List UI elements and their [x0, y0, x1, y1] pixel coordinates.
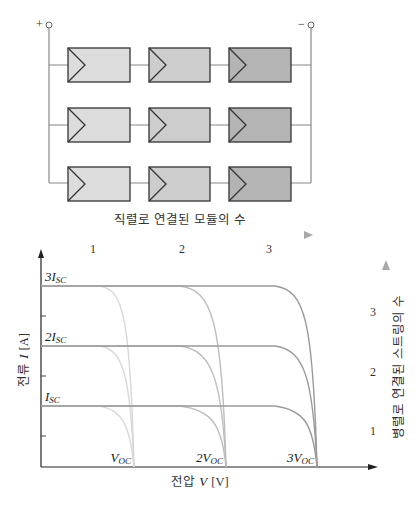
- parallel-number-2: 2: [370, 365, 376, 379]
- pv-module: [229, 108, 291, 142]
- parallel-number-3: 3: [370, 305, 376, 319]
- plus-terminal-label: +: [36, 17, 43, 31]
- pv-module: [149, 48, 210, 82]
- pv-module: [68, 108, 130, 142]
- string-row-2: [49, 108, 311, 142]
- y-tick-2isc: 2ISC: [45, 329, 67, 345]
- string-row-3: [49, 167, 311, 201]
- plus-terminal-icon: [46, 22, 52, 28]
- parallel-number-1: 1: [370, 424, 376, 438]
- pv-module: [68, 48, 130, 82]
- y-tick-3isc: 3ISC: [44, 269, 67, 285]
- series-number-1: 1: [90, 242, 96, 256]
- parallel-count-label: 병렬로 연결된 스트링의 수: [391, 295, 406, 439]
- pv-module: [229, 167, 291, 201]
- string-row-1: [49, 48, 311, 82]
- y-tick-isc: ISC: [44, 389, 61, 405]
- pv-array-diagram: + −: [0, 0, 419, 505]
- y-axis-title: 전류 I [A]: [16, 333, 31, 387]
- pv-module: [149, 108, 210, 142]
- pv-module: [149, 167, 210, 201]
- iv-chart: 3ISC 2ISC ISC VOC 2VOC 3VOC 전압 V [V] 전류 …: [16, 249, 406, 489]
- pv-module: [68, 167, 130, 201]
- circuit-diagram: + −: [36, 17, 314, 256]
- curves-1-series: [41, 286, 134, 467]
- parallel-arrow-head-icon: [382, 260, 390, 270]
- curves-3-series: [41, 286, 317, 467]
- x-axis-arrow-icon: [368, 464, 378, 470]
- x-tick-voc: VOC: [111, 450, 132, 466]
- series-arrow-head-icon: [304, 231, 313, 239]
- x-tick-2voc: 2VOC: [196, 450, 224, 466]
- pv-module: [229, 48, 291, 82]
- x-tick-3voc: 3VOC: [286, 450, 315, 466]
- series-number-3: 3: [266, 242, 272, 256]
- series-count-label: 직렬로 연결된 모듈의 수: [114, 212, 246, 227]
- y-axis-arrow-icon: [38, 249, 44, 258]
- x-axis-title: 전압 V [V]: [171, 474, 228, 489]
- series-number-2: 2: [179, 242, 185, 256]
- minus-terminal-icon: [308, 22, 314, 28]
- minus-terminal-label: −: [298, 17, 305, 31]
